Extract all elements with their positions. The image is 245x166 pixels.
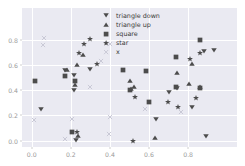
x-tick-label-2: 0.4	[105, 151, 115, 158]
y-tick-mark-1	[20, 115, 22, 116]
data-point-triangle-up-9	[186, 81, 192, 87]
data-point-x-8	[178, 109, 184, 115]
y-tick-label-2: 0.4	[2, 87, 18, 94]
data-point-square-8	[173, 84, 179, 90]
gridline-vertical-0	[32, 8, 33, 147]
data-point-squaretar-0	[81, 41, 87, 47]
legend-marker-triangle-up-icon	[99, 22, 113, 28]
data-point-triangle-up-3	[80, 51, 86, 57]
data-point-triangle-down-3	[87, 66, 93, 72]
data-point-squaretar-6	[175, 104, 181, 110]
x-tick-mark-3	[149, 147, 150, 149]
data-point-squaretar-3	[74, 129, 80, 135]
legend-label: square	[116, 30, 138, 38]
y-tick-mark-3	[20, 64, 22, 65]
x-tick-mark-1	[70, 147, 71, 149]
gridline-horizontal-1	[22, 115, 237, 116]
x-tick-label-4: 0.8	[183, 151, 193, 158]
data-point-square-1	[62, 73, 68, 79]
data-point-x-1	[40, 42, 46, 48]
data-point-triangle-down-0	[62, 67, 68, 73]
x-tick-mark-4	[188, 147, 189, 149]
legend-label: triangle down	[116, 12, 160, 20]
y-tick-label-4: 0.8	[2, 36, 18, 43]
data-point-triangle-up-7	[174, 70, 180, 76]
data-point-triangle-up-11	[197, 84, 203, 90]
gridline-horizontal-2	[22, 90, 237, 91]
data-point-x-11	[142, 106, 148, 112]
data-point-squaretar-8	[192, 95, 198, 101]
legend-label: star	[116, 39, 128, 47]
x-tick-mark-0	[31, 147, 32, 149]
y-tick-label-1: 0.2	[2, 112, 18, 119]
gridline-vertical-1	[71, 8, 72, 147]
legend-item-triangle-up[interactable]: triangle up	[99, 20, 160, 29]
x-tick-label-1: 0.2	[66, 151, 76, 158]
data-point-triangle-down-4	[38, 106, 44, 112]
legend-marker-square-icon	[99, 31, 113, 37]
data-point-x-5	[98, 58, 104, 64]
data-point-square-9	[173, 54, 179, 60]
data-point-x-0	[41, 35, 47, 41]
x-tick-label-3: 0.6	[144, 151, 154, 158]
data-point-triangle-down-6	[153, 116, 159, 122]
legend-item-star[interactable]: star	[99, 38, 160, 47]
data-point-triangle-up-0	[64, 67, 70, 73]
legend-label: triangle up	[116, 21, 151, 29]
y-tick-label-3: 0.6	[2, 61, 18, 68]
data-point-triangle-up-4	[127, 78, 133, 84]
data-point-square-4	[120, 67, 126, 73]
data-point-triangle-down-11	[211, 47, 217, 53]
legend-item-triangle-down[interactable]: triangle down	[99, 11, 160, 20]
data-point-square-2	[72, 78, 78, 84]
y-tick-mark-0	[20, 140, 22, 141]
data-point-squaretar-4	[132, 94, 138, 100]
data-point-squaretar-9	[197, 50, 203, 56]
x-tick-mark-2	[109, 147, 110, 149]
data-point-triangle-down-10	[200, 48, 206, 54]
y-tick-mark-2	[20, 90, 22, 91]
legend-label: x	[116, 48, 120, 56]
data-point-triangle-down-12	[203, 133, 209, 139]
data-point-triangle-down-8	[189, 104, 195, 110]
x-tick-label-0: 0.0	[27, 151, 37, 158]
gridline-horizontal-0	[22, 141, 237, 142]
legend-marker-triangle-down-icon	[99, 12, 113, 18]
legend-item-x[interactable]: x	[99, 47, 160, 56]
data-point-triangle-up-1	[72, 82, 78, 88]
legend: triangle downtriangle upsquarestarx	[97, 9, 163, 58]
y-tick-label-0: 0.0	[2, 137, 18, 144]
data-point-squaretar-2	[76, 50, 82, 56]
gridline-horizontal-3	[22, 65, 237, 66]
legend-marker-star-icon	[99, 40, 113, 46]
scatter-plot-figure: 0.00.20.40.60.8 0.00.20.40.60.8 triangle…	[0, 0, 245, 166]
data-point-triangle-up-12	[75, 133, 81, 139]
gridline-vertical-4	[188, 8, 189, 147]
legend-marker-x-icon	[99, 49, 113, 55]
legend-item-square[interactable]: square	[99, 29, 160, 38]
data-point-squaretar-5	[165, 99, 171, 105]
y-tick-mark-4	[20, 39, 22, 40]
